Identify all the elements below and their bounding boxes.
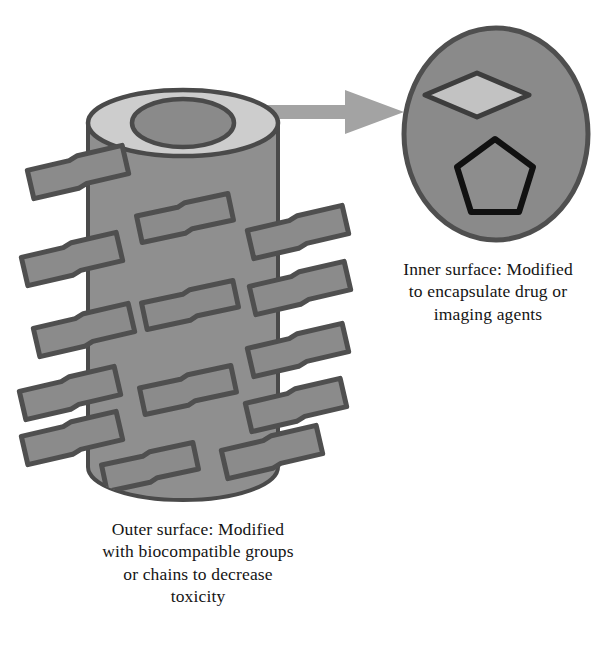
inner-surface-caption: Inner surface: Modified to encapsulate d…: [372, 258, 604, 325]
nanotube-cross-section: [404, 28, 588, 240]
cylinder-bore: [132, 99, 234, 147]
outer-surface-caption: Outer surface: Modified with biocompatib…: [28, 518, 368, 608]
nanotube-cylinder: [19, 90, 352, 500]
figure-root: Inner surface: Modified to encapsulate d…: [0, 0, 611, 648]
